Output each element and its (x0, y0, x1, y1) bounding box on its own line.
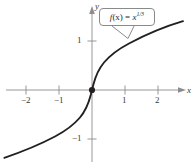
origin-point-marker (89, 87, 95, 93)
function-label-text: f(x) = x1/3 (110, 13, 144, 22)
x-axis (6, 87, 186, 93)
x-tick-label-pos2: 2 (155, 96, 160, 105)
y-axis-label: y (95, 2, 99, 11)
function-exponent: 1/3 (136, 11, 144, 17)
y-tick-label-neg1: −1 (72, 134, 82, 143)
callout-pointer-tail (112, 26, 134, 39)
y-tick-label-pos1: 1 (77, 36, 82, 45)
function-arg-equals: (x) = (112, 12, 132, 22)
x-tick-label-pos1: 1 (122, 96, 127, 105)
function-label-callout: f(x) = x1/3 (99, 8, 155, 26)
x-tick-label-neg2: −2 (21, 96, 31, 105)
x-tick-label-neg1: −1 (54, 96, 64, 105)
plot-canvas (0, 0, 195, 168)
x-axis-label: x (187, 86, 191, 95)
cube-root-function-figure: f(x) = x1/3 −2 −1 1 2 1 −1 y x (0, 0, 195, 168)
